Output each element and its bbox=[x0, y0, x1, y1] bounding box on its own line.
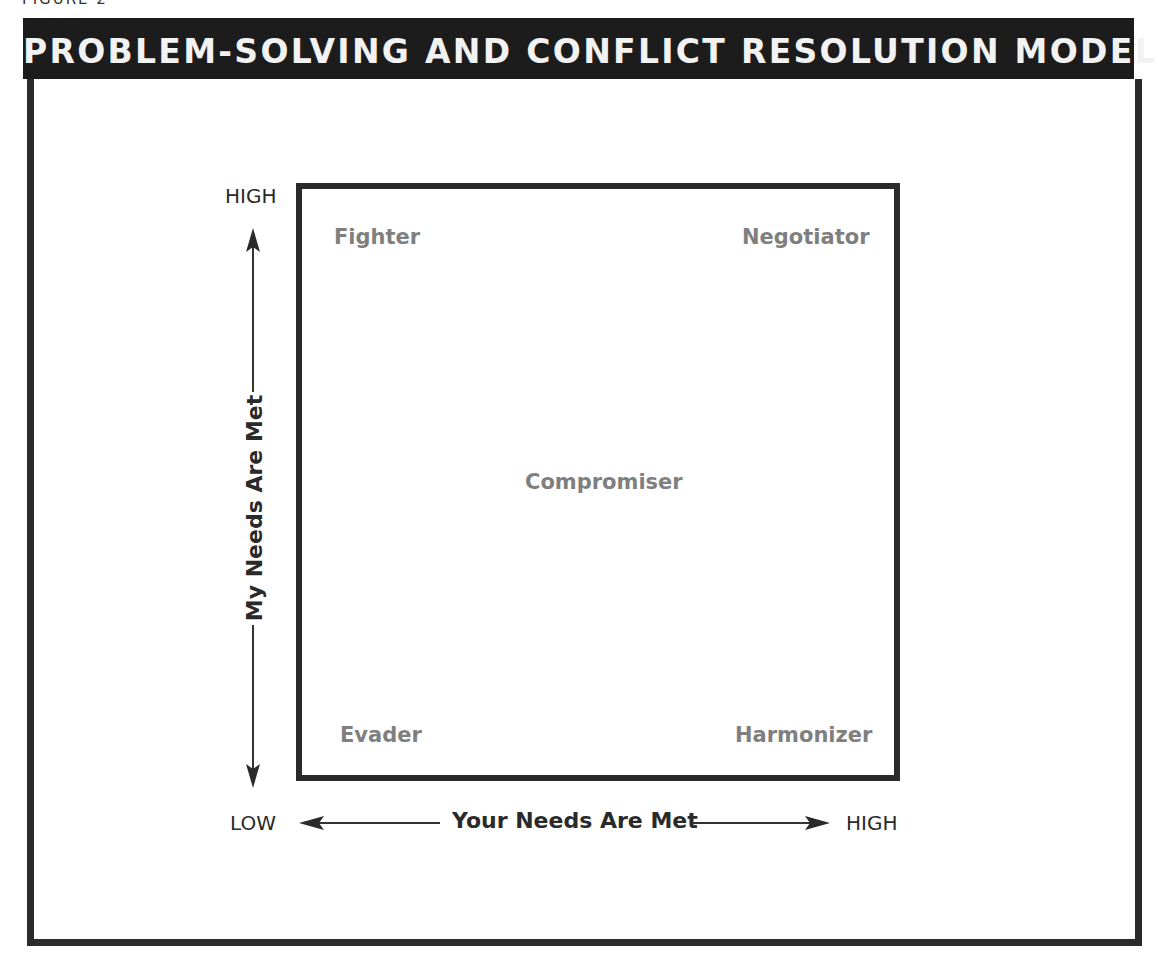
y-axis-title: My Needs Are Met bbox=[242, 395, 267, 621]
quadrant-negotiator: Negotiator bbox=[742, 225, 870, 249]
figure-title: PROBLEM-SOLVING AND CONFLICT RESOLUTION … bbox=[23, 32, 1134, 71]
quadrant-fighter: Fighter bbox=[334, 225, 420, 249]
x-axis-high-label: HIGH bbox=[846, 811, 897, 835]
title-bar: PROBLEM-SOLVING AND CONFLICT RESOLUTION … bbox=[23, 18, 1134, 79]
x-axis-low-label: LOW bbox=[230, 811, 276, 835]
quadrant-compromiser: Compromiser bbox=[525, 470, 683, 494]
x-axis-title: Your Needs Are Met bbox=[452, 808, 698, 833]
y-axis-high-label: HIGH bbox=[225, 184, 276, 208]
figure-label: FIGURE 2 bbox=[22, 0, 108, 8]
quadrant-harmonizer: Harmonizer bbox=[735, 723, 872, 747]
quadrant-evader: Evader bbox=[340, 723, 422, 747]
